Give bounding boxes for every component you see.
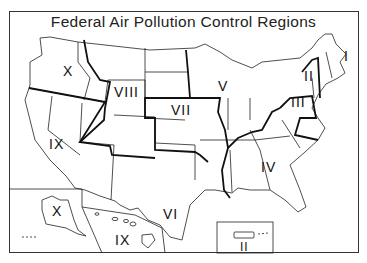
us-map	[0, 0, 367, 263]
inset-label-hawaii: IX	[115, 232, 130, 248]
region-boundary-mississippi	[222, 148, 230, 198]
region-label-ii: II	[304, 68, 314, 84]
region-label-v: V	[218, 78, 228, 94]
region-label-x: X	[63, 63, 73, 79]
region-label-vii: VII	[171, 102, 191, 118]
region-label-ix: IX	[49, 136, 64, 152]
region-label-iii: III	[291, 94, 306, 110]
region-label-viii: VIII	[114, 84, 139, 100]
region-boundary-v	[188, 98, 280, 148]
region-label-iv: IV	[261, 159, 276, 175]
inset-label-alaska: X	[52, 203, 62, 219]
alaska-shape	[42, 196, 86, 236]
inset-frame-alaska	[9, 189, 102, 253]
region-label-vi: VI	[163, 206, 178, 222]
region-label-i: I	[344, 48, 349, 64]
region-boundary-x-ix	[29, 88, 105, 142]
inset-label-puerto-rico: II	[240, 240, 249, 254]
